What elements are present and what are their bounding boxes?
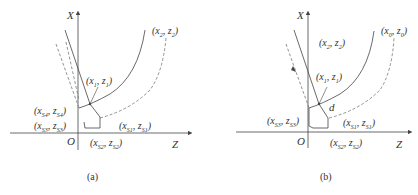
point-label-x1z1-b: (x1, z1)	[316, 72, 342, 84]
point-label-x0z0-b: (x0, z0)	[381, 26, 407, 38]
point-label-x2z2-b: (x2, z2)	[319, 38, 345, 50]
contour-b	[309, 104, 328, 128]
dashed-line-a2	[66, 42, 79, 100]
contour-a	[84, 104, 100, 128]
caption-a: (a)	[87, 172, 98, 182]
point-x1z1-b	[318, 103, 320, 105]
leader-a	[90, 87, 98, 104]
caption-b: (b)	[320, 172, 332, 182]
point-label-s1-b: (xS1, zS1)	[343, 118, 375, 130]
solid-curve-a	[79, 30, 145, 108]
x-axis-label-a: X	[67, 10, 74, 21]
origin-label-a: O	[67, 136, 75, 147]
point-label-s3-b: (xS3, zS3)	[267, 116, 299, 128]
point-label-x1z1-a: (x1, z1)	[86, 76, 112, 88]
dashed-line-a1	[56, 44, 79, 108]
distance-label-d: d	[329, 102, 335, 113]
point-label-s1-a: (xS1, zS1)	[119, 121, 151, 133]
z-axis-label-a: Z	[172, 139, 178, 150]
z-axis-label-b: Z	[396, 139, 402, 150]
diagram-canvas	[0, 0, 418, 195]
tool-line-b	[294, 30, 319, 104]
point-label-s3-a: (xS3, zS3)	[34, 121, 66, 133]
point-label-s2-b: (xS2, zS2)	[330, 138, 362, 150]
point-label-s4-a: (xS4, zS4)	[34, 106, 66, 118]
origin-label-b: O	[297, 136, 305, 147]
point-x1z1-a	[89, 103, 91, 105]
dashed-line-b	[286, 44, 309, 108]
point-label-x2z2-a: (x2, z2)	[152, 26, 178, 38]
x-axis-label-b: X	[297, 10, 304, 21]
point-label-s2-a: (xS2, zS2)	[90, 138, 122, 150]
